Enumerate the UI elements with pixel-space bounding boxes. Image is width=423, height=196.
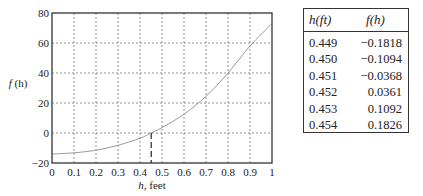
cell-fh: −0.1094 [353, 52, 408, 67]
cell-h: 0.454 [304, 118, 353, 133]
y-tick-label: 80 [38, 7, 50, 19]
column-header-h: h(ft) [304, 12, 353, 28]
table-row: 0.449−0.1818 [304, 35, 408, 52]
cell-h: 0.453 [304, 102, 353, 117]
table-header: h(ft) f(h) [304, 9, 408, 32]
cell-h: 0.449 [304, 36, 353, 51]
cell-h: 0.452 [304, 85, 353, 100]
x-tick-label: 0.8 [221, 166, 235, 178]
x-tick-label: 1 [269, 166, 275, 178]
x-tick-labels: 00.10.20.30.40.50.60.70.80.91 [49, 166, 275, 178]
cell-fh: 0.1092 [353, 102, 408, 117]
y-tick-label: 20 [38, 97, 50, 109]
x-tick-label: 0.6 [177, 166, 191, 178]
values-table: h(ft) f(h) 0.449−0.1818 0.450−0.1094 0.4… [303, 8, 409, 133]
x-tick-label: 0.3 [111, 166, 125, 178]
table-row: 0.4520.0361 [304, 85, 408, 102]
cell-fh: −0.0368 [353, 69, 408, 84]
table-row: 0.450−0.1094 [304, 52, 408, 69]
x-tick-label: 0.5 [155, 166, 169, 178]
x-tick-label: 0.1 [67, 166, 81, 178]
cell-fh: 0.1826 [353, 118, 408, 133]
cell-h: 0.451 [304, 69, 353, 84]
table-row: 0.4540.1826 [304, 118, 408, 135]
x-axis-label: h, feet [138, 179, 165, 191]
x-tick-label: 0.2 [89, 166, 103, 178]
x-tick-label: 0.4 [133, 166, 147, 178]
y-tick-label: −20 [32, 157, 50, 169]
line-chart: 00.10.20.30.40.50.60.70.80.91 −200204060… [0, 0, 300, 196]
y-tick-label: 0 [44, 127, 50, 139]
cell-fh: −0.1818 [353, 36, 408, 51]
y-axis-label: f (h) [9, 77, 28, 90]
y-tick-label: 40 [38, 67, 50, 79]
grid-lines [52, 13, 272, 163]
y-tick-label: 60 [38, 37, 50, 49]
x-tick-label: 0 [49, 166, 55, 178]
table-row: 0.4530.1092 [304, 101, 408, 118]
x-tick-label: 0.9 [243, 166, 257, 178]
plot-frame [52, 13, 272, 163]
column-header-fh: f(h) [353, 12, 408, 28]
y-tick-labels: −20020406080 [32, 7, 50, 169]
cell-h: 0.450 [304, 52, 353, 67]
cell-fh: 0.0361 [353, 85, 408, 100]
x-tick-label: 0.7 [199, 166, 213, 178]
table-row: 0.451−0.0368 [304, 68, 408, 85]
